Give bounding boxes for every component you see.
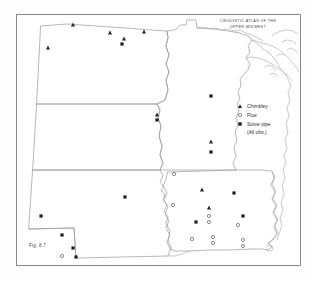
marker-stove-pipe xyxy=(209,94,212,97)
map-title-line1: LINGUISTIC ATLAS OF THE xyxy=(220,19,277,23)
legend-square-icon xyxy=(238,122,241,125)
marker-stove-pipe xyxy=(209,150,212,153)
marker-stove-pipe xyxy=(241,214,244,217)
marker-stove-pipe xyxy=(39,214,42,217)
figure-caption: Fig. 8.7 xyxy=(29,243,46,248)
figure-root: LINGUISTIC ATLAS OF THE UPPER MIDWEST Ch… xyxy=(0,0,314,281)
marker-stove-pipe xyxy=(120,42,123,45)
marker-stove-pipe xyxy=(155,118,158,121)
map-frame xyxy=(17,15,301,266)
legend-label-stove-pipe: Stove pipe xyxy=(247,121,271,127)
marker-stove-pipe xyxy=(71,246,74,249)
marker-stove-pipe xyxy=(232,191,235,194)
marker-stove-pipe xyxy=(123,195,126,198)
legend-label-chimbley: Chimbley xyxy=(247,103,268,109)
legend-note: (All obs.) xyxy=(247,129,267,135)
legend-label-flue: Flue xyxy=(247,112,257,118)
marker-stove-pipe xyxy=(74,255,77,258)
map-figure: LINGUISTIC ATLAS OF THE UPPER MIDWEST Ch… xyxy=(0,0,314,281)
map-title-line2: UPPER MIDWEST xyxy=(230,25,267,29)
marker-stove-pipe xyxy=(194,220,197,223)
marker-stove-pipe xyxy=(60,233,63,236)
